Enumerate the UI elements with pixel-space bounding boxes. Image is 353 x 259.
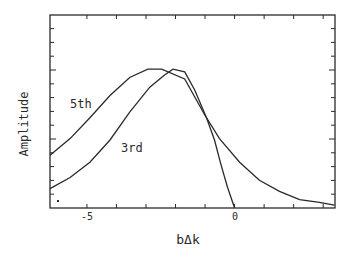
stray-mark (57, 200, 59, 202)
plot-frame (50, 15, 335, 208)
curves (50, 69, 334, 208)
x-axis-label: bΔk (176, 232, 200, 247)
axis-ticks (50, 15, 335, 208)
x-tick-label-0: 0 (232, 211, 238, 222)
curve-3rd (50, 69, 235, 208)
series-label-5th: 5th (70, 97, 92, 111)
series-label-3rd: 3rd (121, 141, 143, 155)
x-tick-label-neg5: -5 (81, 211, 93, 222)
y-axis-label: Amplitude (17, 91, 31, 156)
curve-5th (50, 69, 334, 205)
amplitude-chart: -5 0 bΔk Amplitude 5th 3rd (0, 0, 353, 259)
